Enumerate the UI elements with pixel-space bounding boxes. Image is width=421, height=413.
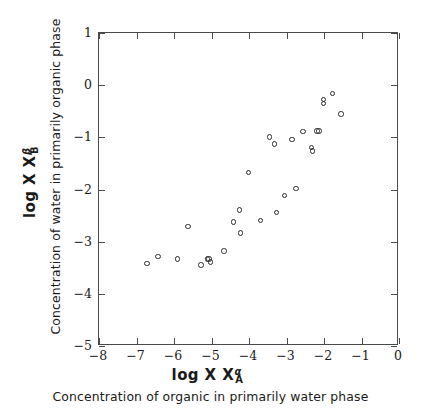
data-point (293, 186, 298, 191)
y-axis-tick-right (391, 242, 397, 243)
x-axis-tick-label: −1 (351, 348, 369, 363)
data-point (144, 261, 149, 266)
data-point (206, 256, 211, 261)
x-axis-tick-top (362, 33, 363, 39)
x-axis-tick-label: 0 (394, 348, 402, 363)
y-axis-tick-label: −3 (66, 233, 92, 248)
y-axis-tick-right (391, 137, 397, 138)
x-axis-tick-top (174, 33, 175, 39)
y-axis-tick-right (391, 346, 397, 347)
x-axis-tick-top (212, 33, 213, 39)
y-axis-tick-label: −2 (66, 181, 92, 196)
x-axis-tick-label: −6 (164, 348, 182, 363)
x-axis-tick (137, 338, 138, 344)
x-axis-caption: Concentration of organic in primarily wa… (0, 389, 421, 404)
y-axis-tick (99, 85, 105, 86)
scatter-plot-figure: log X XβB Concentration of water in prim… (0, 0, 421, 413)
data-point (155, 254, 160, 259)
y-axis-tick (99, 137, 105, 138)
x-axis-tick (324, 338, 325, 344)
data-point (272, 141, 277, 146)
x-axis-tick (399, 338, 400, 344)
data-point (338, 111, 343, 116)
y-axis-tick-label: −5 (66, 338, 92, 353)
y-axis-title-text: log X (21, 173, 39, 218)
x-axis-tick-top (287, 33, 288, 39)
y-axis-tick-right (391, 33, 397, 34)
data-point (330, 91, 335, 96)
x-axis-tick (99, 338, 100, 344)
x-axis-title: log X XαA (0, 366, 421, 384)
y-axis-tick-label: −1 (66, 129, 92, 144)
data-point (237, 207, 242, 212)
data-point (289, 137, 294, 142)
x-axis-tick-top (324, 33, 325, 39)
data-point (175, 256, 180, 261)
x-axis-tick-top (137, 33, 138, 39)
data-point (310, 148, 315, 153)
data-point (282, 193, 287, 198)
x-axis-tick-label: −3 (276, 348, 294, 363)
y-axis-tick (99, 346, 105, 347)
y-axis-tick-right (391, 190, 397, 191)
y-axis-caption: Concentration of water in primarily orga… (48, 2, 63, 352)
y-axis-subscript: B (29, 146, 40, 154)
x-axis-tick (212, 338, 213, 344)
x-axis-tick-label: −2 (314, 348, 332, 363)
x-axis-title-text: log X (172, 366, 217, 384)
data-point (221, 248, 226, 253)
x-axis-tick (362, 338, 363, 344)
x-axis-tick-label: −4 (239, 348, 257, 363)
x-axis-tick-label: −7 (126, 348, 144, 363)
data-point (300, 129, 305, 134)
data-point (185, 224, 190, 229)
y-axis-tick (99, 190, 105, 191)
y-axis-tick-right (391, 85, 397, 86)
y-axis-tick (99, 242, 105, 243)
x-axis-tick (174, 338, 175, 344)
y-axis-tick-right (391, 294, 397, 295)
y-axis-tick-label: 1 (66, 25, 92, 40)
data-point (246, 170, 251, 175)
data-point (238, 230, 243, 235)
x-axis-tick (287, 338, 288, 344)
data-point (258, 218, 263, 223)
data-point (198, 262, 203, 267)
x-axis-tick-label: −5 (201, 348, 219, 363)
y-axis-tick-label: −4 (66, 285, 92, 300)
y-axis-tick (99, 294, 105, 295)
y-axis-title: log X XβB (21, 89, 39, 269)
plot-area (98, 32, 398, 345)
y-axis-tick (99, 33, 105, 34)
data-point (267, 134, 272, 139)
data-point (274, 210, 279, 215)
x-axis-tick (249, 338, 250, 344)
x-axis-subscript: A (235, 374, 243, 385)
data-point (231, 219, 236, 224)
data-point (316, 128, 321, 133)
y-axis-tick-label: 0 (66, 77, 92, 92)
x-axis-tick-top (399, 33, 400, 39)
x-axis-tick-top (249, 33, 250, 39)
